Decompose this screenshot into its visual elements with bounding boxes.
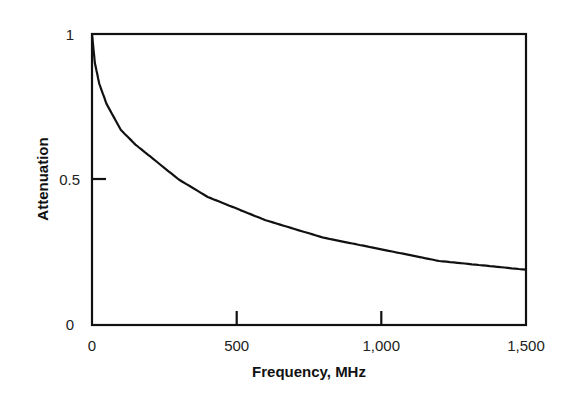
x-tick-label-1000: 1,000 (363, 337, 401, 354)
y-tick-label-0: 0 (66, 316, 74, 333)
attenuation-curve (92, 34, 526, 270)
y-tick-label-0.5: 0.5 (59, 171, 80, 188)
y-axis-title: Attenuation (34, 137, 51, 220)
x-tick-label-0: 0 (88, 337, 96, 354)
x-axis-title: Frequency, MHz (252, 363, 366, 380)
x-tick-label-1500: 1,500 (507, 337, 545, 354)
y-tick-label-1: 1 (66, 26, 74, 43)
x-tick-label-500: 500 (224, 337, 249, 354)
chart: 1 0.5 0 0 500 1,000 1,500 Frequency, MHz… (0, 0, 578, 404)
plot-frame (92, 34, 526, 325)
